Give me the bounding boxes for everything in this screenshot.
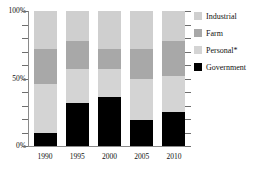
y-axis-tick-mark [22,38,28,39]
y-axis-tick-mark [22,65,28,66]
bar-segment-government[interactable] [98,97,121,146]
bar-segment-personal[interactable] [34,84,57,133]
y-axis-tick-mark [22,106,28,107]
bar-group-1995[interactable] [66,11,89,146]
x-axis-tick-label: 2010 [158,152,190,161]
bar-segment-personal[interactable] [162,76,185,112]
legend-item[interactable]: Government [194,59,256,75]
x-axis-tick-label: 1990 [29,152,61,161]
bar-stack [98,11,121,146]
bar-segment-industrial[interactable] [66,11,89,41]
legend-item[interactable]: Farm [194,25,256,41]
bar-group-2005[interactable] [130,11,153,146]
legend-swatch-icon [194,46,202,54]
bar-stack [34,11,57,146]
y-axis-tick-mark-right [185,92,191,93]
legend-label: Farm [206,29,223,38]
legend-swatch-icon [194,63,202,71]
y-axis-tick-mark [22,92,28,93]
legend-label: Government [206,63,246,72]
y-axis-tick-mark [22,146,28,147]
y-axis-tick-mark-right [185,133,191,134]
x-axis-tick-label: 2000 [93,152,125,161]
bar-stack [162,11,185,146]
y-axis-tick-mark-right [185,106,191,107]
bar-segment-farm[interactable] [98,49,121,69]
bar-stack [66,11,89,146]
y-axis-tick-mark-right [185,119,191,120]
y-axis-tick-mark-right [185,38,191,39]
legend-item[interactable]: Personal* [194,42,256,58]
bar-segment-farm[interactable] [34,49,57,84]
y-axis-tick-mark [22,25,28,26]
bar-segment-government[interactable] [162,112,185,146]
x-axis-tick-label: 1995 [61,152,93,161]
bar-segment-personal[interactable] [130,79,153,121]
bar-segment-farm[interactable] [162,41,185,76]
legend-label: Industrial [206,12,237,21]
bar-group-2010[interactable] [162,11,185,146]
y-axis-tick-mark [22,79,28,80]
y-axis-tick-mark-right [185,79,191,80]
bar-segment-farm[interactable] [66,41,89,69]
bar-segment-government[interactable] [130,120,153,146]
y-axis-tick-mark [22,119,28,120]
bar-segment-industrial[interactable] [130,11,153,49]
legend-item[interactable]: Industrial [194,8,256,24]
bar-segment-personal[interactable] [66,69,89,103]
y-axis-tick-mark-right [185,52,191,53]
stacked-bar-chart: 100%50%0% IndustrialFarmPersonal*Governm… [0,0,256,172]
bar-group-2000[interactable] [98,11,121,146]
y-axis-tick-mark [22,11,28,12]
plot-area [29,11,190,146]
bar-segment-farm[interactable] [130,49,153,79]
legend-label: Personal* [206,46,238,55]
bar-group-1990[interactable] [34,11,57,146]
y-axis-tick-mark-right [185,25,191,26]
bar-segment-industrial[interactable] [162,11,185,41]
bar-segment-industrial[interactable] [98,11,121,49]
y-axis-tick-mark-right [185,65,191,66]
x-axis-line [28,146,190,147]
legend-swatch-icon [194,29,202,37]
legend-swatch-icon [194,12,202,20]
bar-stack [130,11,153,146]
bar-segment-personal[interactable] [98,69,121,97]
bar-segment-government[interactable] [34,133,57,147]
y-axis-tick-mark-right [185,146,191,147]
bar-segment-government[interactable] [66,103,89,146]
y-axis-tick-mark-right [185,11,191,12]
bar-segment-industrial[interactable] [34,11,57,49]
y-axis-tick-mark [22,52,28,53]
x-axis-tick-label: 2005 [126,152,158,161]
chart-legend: IndustrialFarmPersonal*Government [194,8,256,76]
y-axis-tick-mark [22,133,28,134]
